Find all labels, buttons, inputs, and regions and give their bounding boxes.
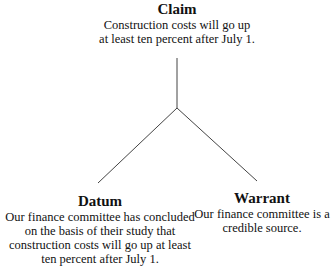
warrant-title: Warrant [190,190,334,207]
claim-text: Construction costs will go up at least t… [60,18,294,46]
datum-title: Datum [0,193,200,210]
datum-node: Datum Our finance committee has conclude… [0,193,200,266]
datum-connector [98,108,177,183]
claim-title: Claim [60,1,294,18]
datum-text: Our finance committee has concluded on t… [0,210,200,266]
warrant-node: Warrant Our finance committee is a credi… [190,190,334,235]
claim-node: Claim Construction costs will go up at l… [60,1,294,46]
warrant-text: Our finance committee is a credible sour… [190,207,334,235]
warrant-connector [177,108,257,181]
